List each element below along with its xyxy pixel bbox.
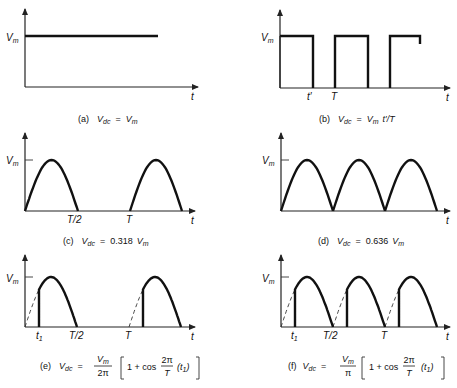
right-bracket [441,357,444,379]
y-label-vm: Vm [261,32,274,44]
phase-controlled-full-wave-waveform [295,277,437,327]
caption-f-frac-num: 2π [403,355,414,365]
y-label-vm: Vm [6,155,19,167]
caption-e-den: 2π [97,368,108,378]
left-bracket [362,357,365,379]
y-label-vm: Vm [6,273,19,285]
uncontrolled-sine-dashed [25,289,143,327]
tick-label-T: T [125,330,132,341]
caption-e: (e)Vdc= Vm 2π 1 + cos 2π T (t1) [40,354,199,379]
caption-e-num: Vm [97,354,109,365]
tick-label-t1: t1 [291,330,298,342]
caption-f-lhs: (f)Vdc= [288,361,326,372]
panel-e: Vm t1 T/2 T t (e)Vdc= Vm 2π 1 + cos 2π T… [6,255,199,379]
x-label-t: t [446,92,450,103]
caption-f-frac-den: T [406,368,413,378]
caption-f-arg: (t1) [421,362,433,373]
y-label-vm: Vm [6,32,19,44]
uncontrolled-sine-dashed [281,289,399,327]
half-wave-waveform [25,160,182,211]
tick-label-t1: t1 [36,330,43,342]
panel-a: Vm t (a)Vdc=Vm [6,9,198,125]
caption-f-num: Vm [342,354,354,365]
tick-label-T: T [331,91,338,102]
panel-c: Vm T/2 T t (c)Vdc=0.318Vm [6,133,195,247]
caption-e-lhs: (e)Vdc= [40,361,83,372]
x-label-t: t [191,215,195,226]
caption-b: (b)Vdc=Vmt′/T [319,114,396,125]
caption-d: (d)Vdc=0.636Vm [318,236,404,247]
x-label-t: t [446,215,450,226]
panel-f: Vm t1 T/2 T t (f)Vdc= Vm π 1 + cos 2π T … [262,255,450,379]
y-label-vm: Vm [262,155,275,167]
pulse-waveform [280,36,420,88]
tick-label-T-half: T/2 [323,330,338,341]
left-bracket [121,357,124,379]
panel-d: Vm t (d)Vdc=0.636Vm [262,133,450,247]
full-wave-waveform [281,160,437,211]
tick-label-T: T [126,214,133,225]
panel-b: Vm t′ T t (b)Vdc=Vmt′/T [261,10,450,125]
caption-e-frac-den: T [164,368,171,378]
caption-f-bracket-text: 1 + cos [369,362,399,372]
caption-a: (a)Vdc=Vm [78,114,138,125]
caption-f: (f)Vdc= Vm π 1 + cos 2π T (t1) [288,354,444,379]
caption-f-den: π [345,368,351,378]
tick-label-t-prime: t′ [307,91,313,102]
caption-e-frac-num: 2π [161,355,172,365]
phase-controlled-half-wave-waveform [39,277,181,327]
caption-e-arg: (t1) [177,362,189,373]
caption-c: (c)Vdc=0.318Vm [63,236,149,247]
right-bracket [196,357,199,379]
x-label-t: t [191,331,195,342]
y-label-vm: Vm [262,273,275,285]
caption-e-bracket-text: 1 + cos [127,362,157,372]
tick-label-T-half: T/2 [69,330,84,341]
tick-label-T-half: T/2 [67,214,82,225]
x-label-t: t [446,331,450,342]
tick-label-T: T [381,330,388,341]
waveform-figure: Vm t (a)Vdc=Vm Vm t′ T t (b)Vdc=Vmt′/T V… [0,0,457,388]
x-label-t: t [191,91,195,102]
